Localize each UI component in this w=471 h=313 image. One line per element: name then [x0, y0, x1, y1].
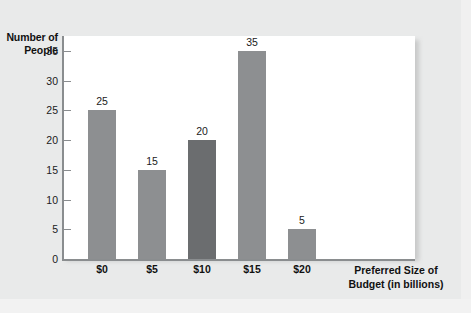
- bar-value-label: 25: [82, 96, 122, 107]
- x-axis-title: Preferred Size of Budget (in billions): [330, 263, 462, 291]
- x-axis-tick-label: $5: [127, 264, 177, 275]
- bar: [288, 229, 316, 259]
- y-axis-tick: [64, 259, 71, 260]
- page-edge-sheen-right: [461, 0, 471, 313]
- bar: [88, 110, 116, 259]
- y-axis-tick-label: 25: [32, 105, 58, 116]
- bar: [188, 140, 216, 259]
- page-edge-sheen-bottom: [0, 299, 471, 313]
- x-axis-title-line-2: Budget (in billions): [330, 277, 462, 291]
- y-axis-tick-label: 10: [32, 195, 58, 206]
- x-axis-tick-label: $15: [227, 264, 277, 275]
- y-axis-tick-label: 30: [32, 76, 58, 87]
- bar-value-label: 5: [282, 215, 322, 226]
- x-axis-tick-label: $10: [177, 264, 227, 275]
- y-axis-tick-label: 20: [32, 135, 58, 146]
- x-axis-line: [62, 259, 415, 261]
- x-axis-tick-label: $20: [277, 264, 327, 275]
- y-axis-tick-label: 35: [32, 46, 58, 57]
- bar-value-label: 15: [132, 156, 172, 167]
- bar-value-label: 20: [182, 126, 222, 137]
- bar-value-label: 35: [232, 37, 272, 48]
- chart-page: Number of People 05101520253035 25152035…: [0, 0, 471, 313]
- x-axis-title-line-1: Preferred Size of: [330, 263, 462, 277]
- y-axis-tick-label: 5: [32, 224, 58, 235]
- y-axis-tick-label: 15: [32, 165, 58, 176]
- y-axis-tick-label: 0: [32, 254, 58, 265]
- y-axis-tick-labels: 05101520253035: [28, 0, 58, 313]
- bar-series: 251520355: [62, 36, 415, 259]
- bar: [138, 170, 166, 259]
- bar: [238, 51, 266, 259]
- x-axis-tick-label: $0: [77, 264, 127, 275]
